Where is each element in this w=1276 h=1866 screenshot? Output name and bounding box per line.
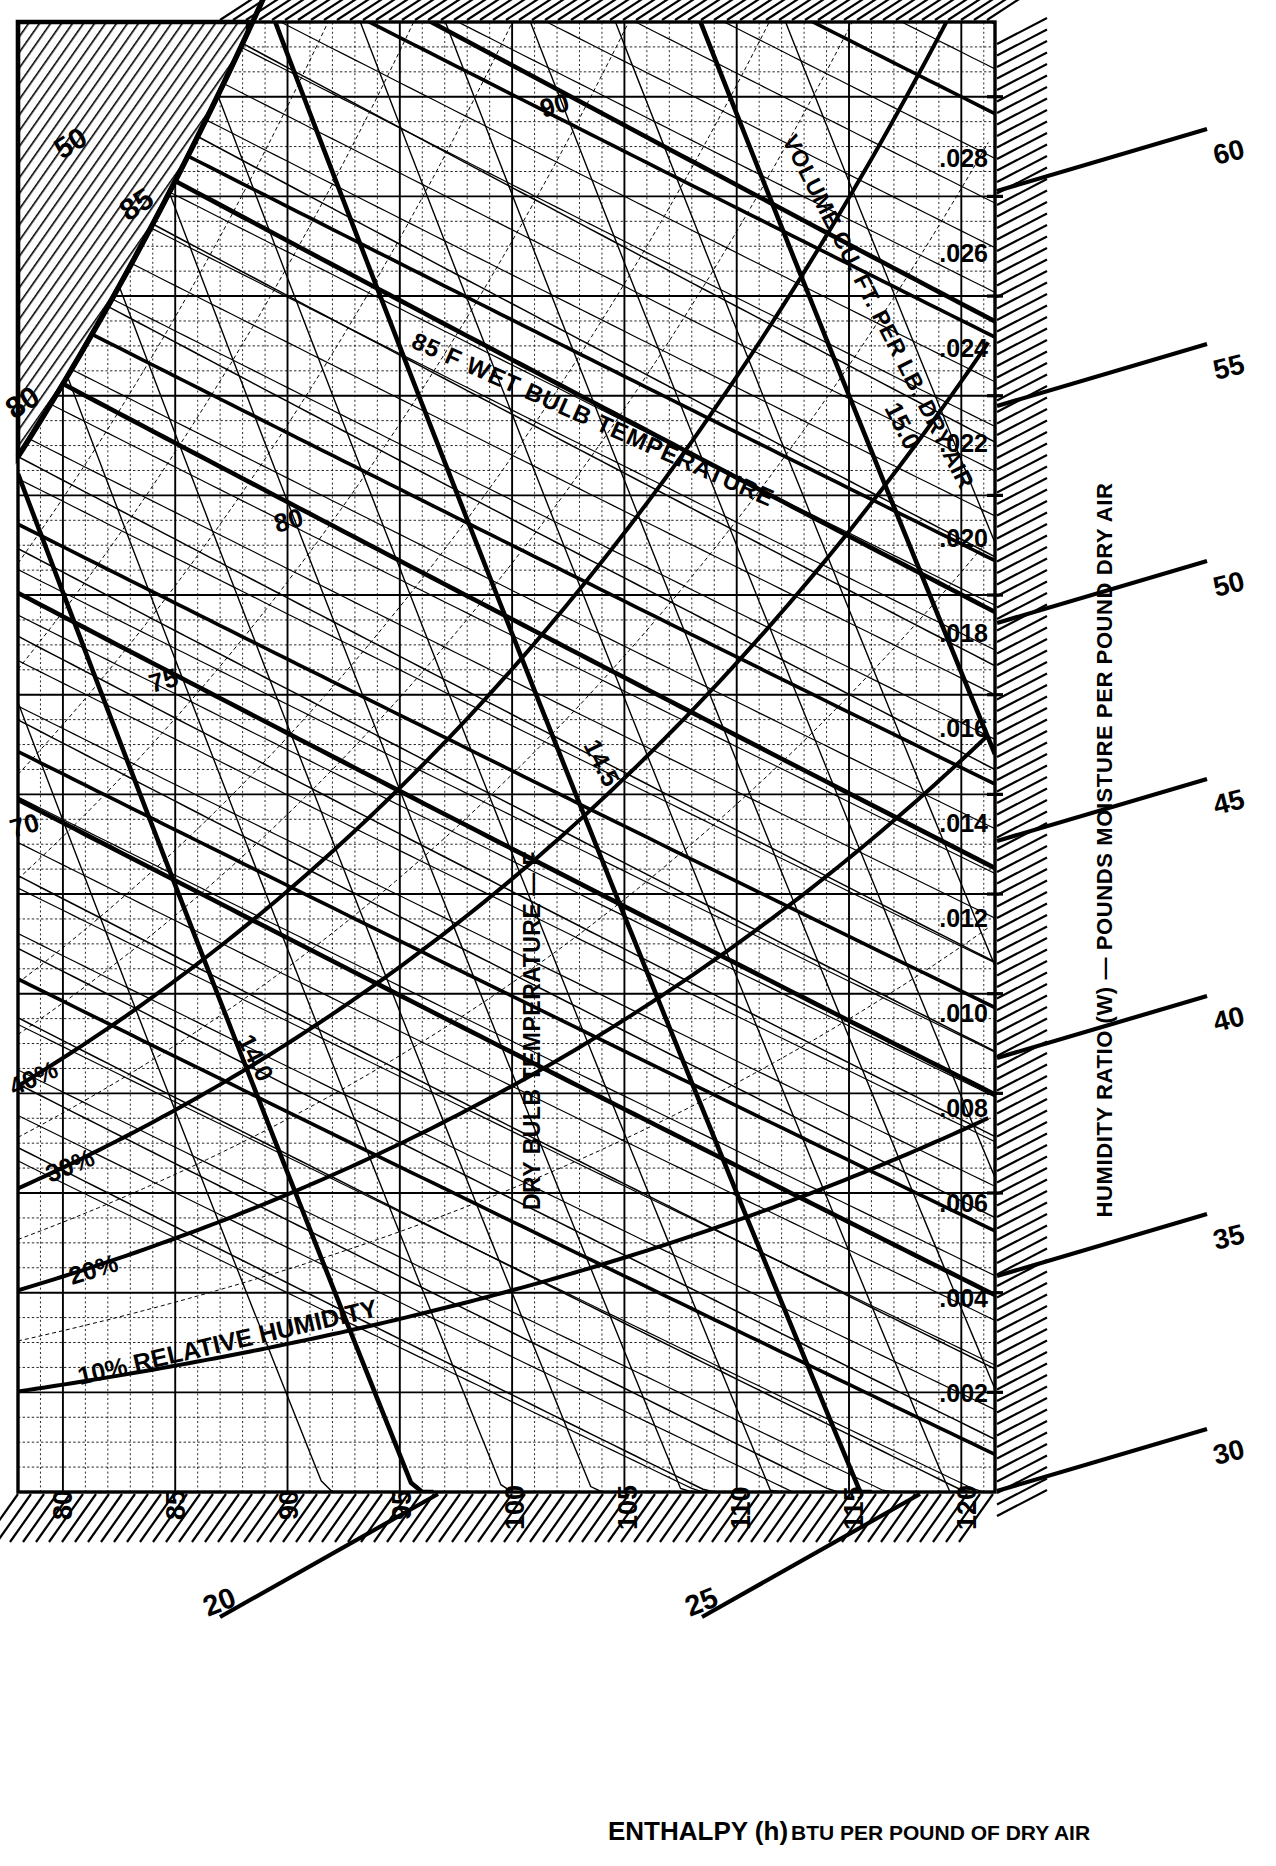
psychrometric-chart-page: 80 85 90 95 100 105 110 115 120 DRY BULB… xyxy=(0,0,1276,1866)
psychrometric-chart xyxy=(0,0,1276,1866)
